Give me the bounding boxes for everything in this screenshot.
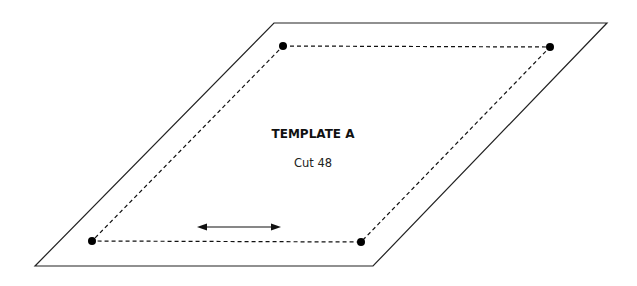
template-diagram: TEMPLATE A Cut 48 [0,0,637,286]
corner-marker-top-left [279,42,287,50]
corner-marker-bottom-left [88,237,96,245]
corner-marker-top-right [546,43,554,51]
template-title: TEMPLATE A [272,127,356,141]
cut-label: Cut 48 [294,156,332,170]
outer-template-outline [35,23,607,266]
corner-marker-bottom-right [357,238,365,246]
